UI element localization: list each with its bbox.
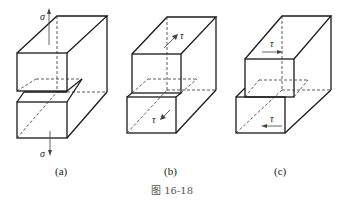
upper-front-face xyxy=(245,59,294,97)
lower-right-bottom-edge xyxy=(67,92,107,138)
hidden-lower-diagonal xyxy=(17,92,57,138)
upper-front-face xyxy=(17,53,67,91)
upper-front-face xyxy=(132,54,181,93)
figure-c: τ τ (c) xyxy=(236,16,331,178)
figure-c-label: (c) xyxy=(274,165,287,178)
crack-plane-right xyxy=(294,80,308,97)
lower-front-face xyxy=(17,102,67,138)
crack-tip-upper xyxy=(67,79,82,91)
crack-plane-right xyxy=(181,79,197,93)
figure-b: τ τ (b) xyxy=(127,17,216,178)
lower-right-bottom-edge xyxy=(176,90,216,133)
sigma-label-top: σ xyxy=(40,11,46,22)
lower-top-left-edge xyxy=(17,92,24,102)
figure-caption: 图 16-18 xyxy=(151,185,193,196)
figure-a: σ σ (a) xyxy=(17,8,107,178)
figure-a-label: (a) xyxy=(55,165,68,178)
crack-modes-diagram: σ σ (a) τ τ xyxy=(0,0,343,205)
lower-front-face xyxy=(236,97,285,133)
upper-top-face xyxy=(17,16,107,53)
tau-label-bottom: τ xyxy=(152,114,156,125)
tau-label-bottom: τ xyxy=(270,113,274,124)
upper-top-face xyxy=(245,16,331,59)
sigma-label-bottom: σ xyxy=(40,148,46,159)
crack-upper-left xyxy=(17,79,36,91)
crack-plane-left xyxy=(132,79,148,93)
figure-b-label: (b) xyxy=(164,165,177,178)
tau-arrow-bottom: τ xyxy=(152,110,170,125)
crack-tip-lower xyxy=(67,79,82,102)
lower-block xyxy=(17,92,107,138)
crack-plane-left xyxy=(245,80,259,97)
lower-top-left-edge xyxy=(236,88,245,97)
tau-arrow-top: τ xyxy=(262,38,283,54)
tau-arrow-bottom: τ xyxy=(261,113,282,128)
sigma-arrow-bottom: σ xyxy=(40,131,52,159)
tau-label-top: τ xyxy=(270,38,274,49)
upper-block xyxy=(17,16,107,92)
tau-label-top: τ xyxy=(180,30,184,41)
